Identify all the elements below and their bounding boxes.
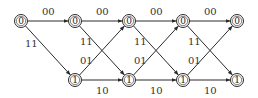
state-label: 1: [234, 75, 240, 85]
state-label: 0: [180, 16, 186, 26]
edge-label: 00: [204, 6, 217, 17]
state-node-0: 0: [69, 15, 82, 28]
edge-label: 10: [150, 85, 163, 96]
state-node-1: 1: [231, 74, 244, 87]
edge-label: 10: [96, 85, 109, 96]
state-label: 1: [72, 75, 78, 85]
trellis-diagram: 001010101 00 11 00 11 01 10 00 11 01 10 …: [0, 0, 258, 98]
state-label: 0: [234, 16, 240, 26]
state-node-1: 1: [123, 74, 136, 87]
state-node-1: 1: [177, 74, 190, 87]
edge-label: 11: [80, 36, 93, 47]
edge-label: 11: [188, 36, 201, 47]
state-node-1: 1: [69, 74, 82, 87]
edge-label: 01: [134, 55, 147, 66]
trellis-canvas: 001010101 00 11 00 11 01 10 00 11 01 10 …: [0, 0, 258, 98]
state-label: 0: [72, 16, 78, 26]
edge-label: 11: [134, 36, 147, 47]
edge-label: 11: [25, 38, 38, 49]
edge-label: 00: [150, 6, 163, 17]
edges: [25, 21, 232, 80]
state-label: 1: [126, 75, 132, 85]
state-node-0: 0: [231, 15, 244, 28]
nodes: 001010101: [15, 15, 244, 87]
edge-label: 01: [188, 55, 201, 66]
state-label: 0: [18, 16, 24, 26]
state-node-0: 0: [123, 15, 136, 28]
edge-label: 00: [96, 6, 109, 17]
state-label: 1: [180, 75, 186, 85]
edge-label: 10: [204, 85, 217, 96]
edge-label: 01: [80, 55, 93, 66]
state-node-0: 0: [177, 15, 190, 28]
state-label: 0: [126, 16, 132, 26]
transition-edge: [25, 26, 70, 75]
edge-label: 00: [42, 6, 55, 17]
state-node-0: 0: [15, 15, 28, 28]
